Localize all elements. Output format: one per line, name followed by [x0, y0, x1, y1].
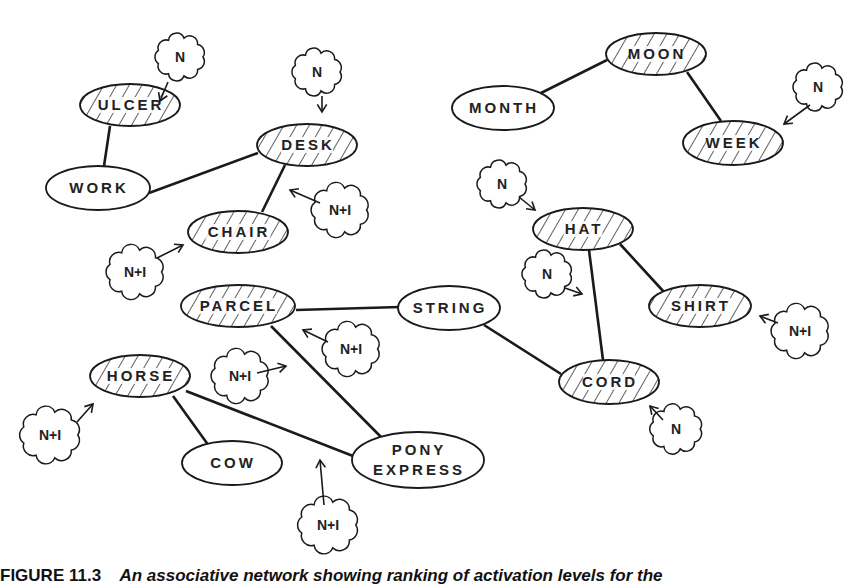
node-label: HORSE — [107, 367, 175, 384]
activation-cloud-n-plus-1: N+I — [20, 404, 93, 464]
edge-horse-cow — [173, 396, 209, 446]
node-desk: DESK — [257, 124, 357, 166]
cloud-label: N+I — [317, 517, 339, 533]
node-label: WEEK — [706, 134, 763, 151]
node-label: PONY — [392, 441, 447, 458]
node-label: CORD — [582, 373, 638, 390]
cloud-label: N+I — [329, 202, 351, 218]
node-hat: HAT — [533, 208, 633, 250]
node-label: ULCER — [98, 96, 165, 113]
node-moon: MOON — [606, 33, 706, 75]
node-work: WORK — [46, 166, 150, 210]
figure-caption: FIGURE 11.3 An associative network showi… — [0, 566, 867, 585]
edge-hat-shirt — [620, 244, 664, 292]
node-pony: PONYEXPRESS — [352, 432, 484, 488]
node-label: DESK — [281, 136, 335, 153]
figure-label: FIGURE 11.3 — [0, 566, 101, 585]
activation-cloud-n: N — [522, 250, 582, 298]
cloud-label: N+I — [340, 341, 362, 357]
edge-parcel-string — [296, 307, 400, 310]
node-label: PARCEL — [200, 297, 279, 314]
edge-ulcer-work — [104, 126, 110, 166]
activation-cloud-n-plus-1: N+I — [298, 460, 358, 554]
network-canvas: ULCERWORKDESKCHAIRMOONMONTHWEEKHATSHIRTP… — [0, 0, 867, 585]
edge-moon-week — [687, 72, 721, 121]
node-label: HAT — [565, 220, 604, 237]
cloud-label: N — [671, 421, 681, 437]
activation-cloud-n: N — [292, 48, 341, 112]
node-chair: CHAIR — [188, 211, 288, 253]
cloud-label: N — [175, 49, 185, 65]
cloud-label: N+I — [789, 323, 811, 339]
node-label: STRING — [413, 299, 488, 316]
cloud-label: N+I — [229, 368, 251, 384]
edge-desk-chair — [262, 165, 285, 212]
edge-work-desk — [149, 153, 258, 193]
arrow-icon — [784, 105, 810, 124]
activation-cloud-n-plus-1: N+I — [760, 303, 828, 358]
node-cord: CORD — [559, 360, 659, 404]
activation-cloud-n: N — [784, 63, 842, 124]
node-label: COW — [210, 454, 256, 471]
node-string: STRING — [398, 286, 500, 330]
edge-hat-cord — [589, 250, 603, 360]
node-label: MOON — [628, 45, 687, 62]
activation-cloud-n-plus-1: N+I — [290, 182, 368, 237]
node-label: CHAIR — [208, 223, 271, 240]
cloud-label: N+I — [124, 264, 146, 280]
activation-cloud-n-plus-1: N+I — [211, 348, 286, 403]
node-label: MONTH — [469, 99, 539, 116]
edge-moon-month — [541, 60, 607, 93]
node-label: SHIRT — [671, 297, 731, 314]
cloud-label: N — [497, 176, 507, 192]
cloud-label: N — [813, 79, 823, 95]
activation-cloud-n: N — [477, 160, 535, 210]
cloud-label: N+I — [39, 427, 61, 443]
node-parcel: PARCEL — [181, 285, 295, 327]
node-week: WEEK — [683, 121, 783, 165]
node-horse: HORSE — [90, 355, 190, 397]
cloud-label: N — [312, 64, 322, 80]
node-shirt: SHIRT — [649, 285, 751, 327]
associative-network-diagram: ULCERWORKDESKCHAIRMOONMONTHWEEKHATSHIRTP… — [0, 0, 867, 585]
node-cow: COW — [182, 441, 282, 485]
node-label: WORK — [69, 179, 129, 196]
node-month: MONTH — [452, 86, 554, 130]
cloud-label: N — [542, 266, 552, 282]
activation-cloud-n-plus-1: N+I — [106, 244, 183, 299]
activation-cloud-n: N — [650, 404, 702, 454]
caption-text: An associative network showing ranking o… — [119, 566, 662, 585]
edge-string-cord — [484, 325, 561, 374]
node-label: EXPRESS — [373, 461, 465, 478]
